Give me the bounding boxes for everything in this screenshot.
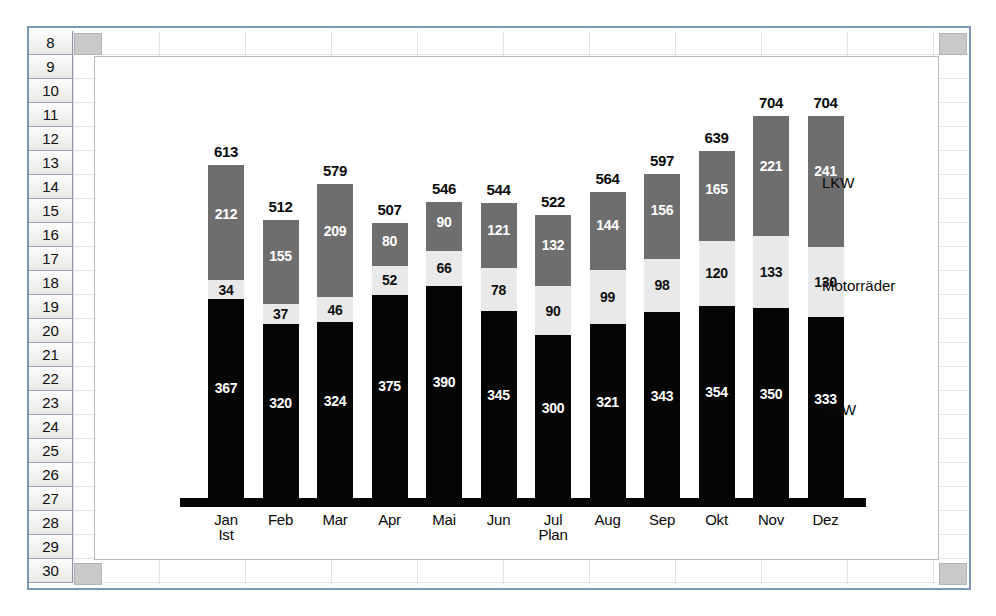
x-axis-line	[180, 498, 866, 507]
chart-plot-area: 36734212613JanIst32037155512Feb324462095…	[95, 57, 938, 559]
row-header-27[interactable]: 27	[29, 487, 73, 511]
row-header-22[interactable]: 22	[29, 367, 73, 391]
row-header-15[interactable]: 15	[29, 199, 73, 223]
bar-jan[interactable]	[208, 57, 244, 498]
row-header-21[interactable]: 21	[29, 343, 73, 367]
value-pkw-nov: 350	[753, 387, 789, 401]
segment-pkw-feb[interactable]	[263, 324, 299, 498]
series-label-motorraeder: Motorräder	[822, 278, 895, 293]
row-header-20[interactable]: 20	[29, 319, 73, 343]
segment-lkw-nov[interactable]	[753, 116, 789, 236]
x-tick-jun: Jun	[477, 512, 521, 527]
x-tick-dez: Dez	[804, 512, 848, 527]
embedded-chart-object[interactable]: 36734212613JanIst32037155512Feb324462095…	[94, 56, 939, 560]
segment-pkw-mai[interactable]	[426, 286, 462, 498]
value-lkw-jul: 132	[535, 238, 571, 252]
row-header-10[interactable]: 10	[29, 79, 73, 103]
value-motorraeder-mai: 66	[426, 261, 462, 275]
selection-handle-top-left[interactable]	[74, 33, 102, 55]
segment-pkw-sep[interactable]	[644, 312, 680, 498]
row-header-16[interactable]: 16	[29, 223, 73, 247]
row-header-30[interactable]: 30	[29, 559, 73, 583]
value-motorraeder-okt: 120	[699, 266, 735, 280]
row-header-18[interactable]: 18	[29, 271, 73, 295]
x-tick-jan: JanIst	[204, 512, 248, 542]
value-lkw-nov: 221	[753, 159, 789, 173]
sheet-row[interactable]	[73, 559, 969, 583]
segment-pkw-jul[interactable]	[535, 335, 571, 498]
value-pkw-okt: 354	[699, 385, 735, 399]
value-pkw-feb: 320	[263, 396, 299, 410]
value-motorraeder-feb: 37	[263, 307, 299, 321]
selection-handle-bottom-left[interactable]	[74, 563, 102, 585]
x-tick-sep: Sep	[640, 512, 684, 527]
value-pkw-aug: 321	[590, 395, 626, 409]
total-label-dez: 704	[804, 95, 848, 110]
value-pkw-mai: 390	[426, 375, 462, 389]
total-label-jan: 613	[204, 144, 248, 159]
row-header-strip[interactable]: 8910111213141516171819202122232425262728…	[29, 31, 73, 585]
value-lkw-aug: 144	[590, 218, 626, 232]
value-motorraeder-aug: 99	[590, 290, 626, 304]
row-header-19[interactable]: 19	[29, 295, 73, 319]
row-header-12[interactable]: 12	[29, 127, 73, 151]
value-pkw-jul: 300	[535, 401, 571, 415]
axis-note-ist: Ist	[204, 527, 248, 542]
sheet-column-divider	[73, 31, 74, 585]
value-lkw-mai: 90	[426, 215, 462, 229]
row-header-13[interactable]: 13	[29, 151, 73, 175]
segment-pkw-nov[interactable]	[753, 308, 789, 498]
x-tick-nov: Nov	[749, 512, 793, 527]
total-label-okt: 639	[695, 130, 739, 145]
row-header-11[interactable]: 11	[29, 103, 73, 127]
value-motorraeder-apr: 52	[372, 273, 408, 287]
x-tick-aug: Aug	[586, 512, 630, 527]
segment-lkw-mar[interactable]	[317, 184, 353, 297]
value-motorraeder-jun: 78	[481, 283, 517, 297]
series-label-pkw: PKW	[822, 402, 856, 417]
value-pkw-jun: 345	[481, 388, 517, 402]
total-label-feb: 512	[259, 199, 303, 214]
row-header-14[interactable]: 14	[29, 175, 73, 199]
bar-jul[interactable]	[535, 57, 571, 498]
row-header-28[interactable]: 28	[29, 511, 73, 535]
value-lkw-mar: 209	[317, 224, 353, 238]
sheet-row[interactable]	[73, 31, 969, 55]
value-pkw-mar: 324	[317, 394, 353, 408]
segment-pkw-okt[interactable]	[699, 306, 735, 498]
value-motorraeder-sep: 98	[644, 278, 680, 292]
bar-feb[interactable]	[263, 57, 299, 498]
bar-mai[interactable]	[426, 57, 462, 498]
segment-pkw-jun[interactable]	[481, 311, 517, 498]
row-header-29[interactable]: 29	[29, 535, 73, 559]
value-lkw-feb: 155	[263, 249, 299, 263]
value-pkw-jan: 367	[208, 381, 244, 395]
total-label-mai: 546	[422, 181, 466, 196]
segment-pkw-apr[interactable]	[372, 295, 408, 498]
segment-lkw-jan[interactable]	[208, 165, 244, 280]
row-header-9[interactable]: 9	[29, 55, 73, 79]
selection-handle-top-right[interactable]	[939, 33, 967, 55]
segment-pkw-jan[interactable]	[208, 299, 244, 498]
row-header-26[interactable]: 26	[29, 463, 73, 487]
x-tick-okt: Okt	[695, 512, 739, 527]
value-pkw-sep: 343	[644, 389, 680, 403]
row-header-23[interactable]: 23	[29, 391, 73, 415]
row-header-24[interactable]: 24	[29, 415, 73, 439]
total-label-mar: 579	[313, 163, 357, 178]
row-header-17[interactable]: 17	[29, 247, 73, 271]
bar-jun[interactable]	[481, 57, 517, 498]
value-pkw-apr: 375	[372, 379, 408, 393]
total-label-jul: 522	[531, 194, 575, 209]
value-motorraeder-jul: 90	[535, 304, 571, 318]
segment-pkw-mar[interactable]	[317, 322, 353, 498]
bar-aug[interactable]	[590, 57, 626, 498]
x-tick-mai: Mai	[422, 512, 466, 527]
segment-pkw-aug[interactable]	[590, 324, 626, 498]
bar-mar[interactable]	[317, 57, 353, 498]
total-label-aug: 564	[586, 171, 630, 186]
value-motorraeder-jan: 34	[208, 283, 244, 297]
row-header-25[interactable]: 25	[29, 439, 73, 463]
row-header-8[interactable]: 8	[29, 31, 73, 55]
selection-handle-bottom-right[interactable]	[939, 563, 967, 585]
